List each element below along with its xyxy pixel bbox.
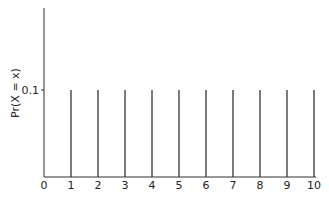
stems [71, 90, 314, 177]
x-tick-label: 9 [284, 179, 291, 192]
x-tick-label: 0 [41, 179, 48, 192]
x-tick-label: 10 [307, 179, 321, 192]
axes [44, 8, 316, 177]
y-ticks: 0.1 [22, 84, 45, 97]
x-tick-label: 2 [95, 179, 102, 192]
x-tick-label: 8 [257, 179, 264, 192]
x-tick-label: 4 [149, 179, 156, 192]
x-tick-label: 1 [68, 179, 75, 192]
probability-stem-chart: 0.1 012345678910 Pr(X = x) [0, 0, 329, 198]
y-tick-label: 0.1 [22, 84, 40, 97]
x-tick-labels: 012345678910 [41, 179, 322, 192]
x-tick-label: 3 [122, 179, 129, 192]
y-axis-label: Pr(X = x) [9, 68, 22, 118]
x-tick-label: 7 [230, 179, 237, 192]
x-tick-label: 6 [203, 179, 210, 192]
x-tick-label: 5 [176, 179, 183, 192]
